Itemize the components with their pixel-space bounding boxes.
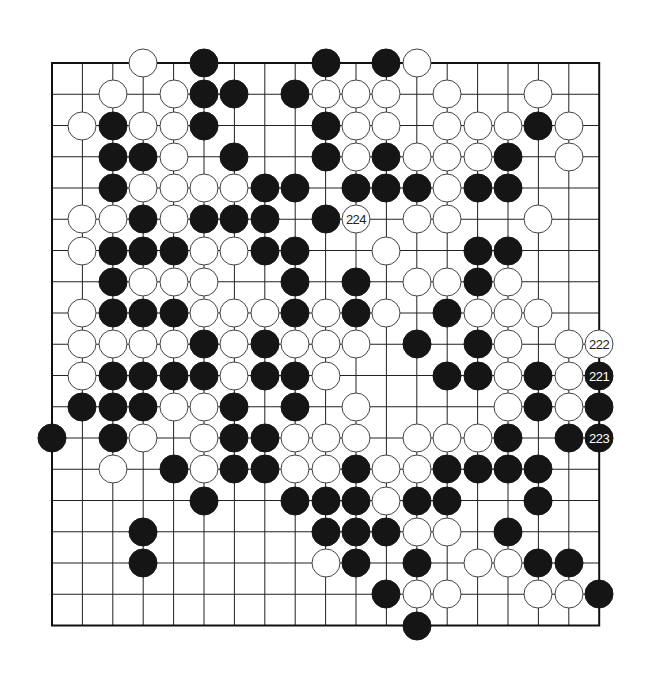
white-stone bbox=[190, 174, 219, 203]
black-stone bbox=[281, 299, 310, 328]
black-stone bbox=[372, 49, 401, 78]
white-stone bbox=[159, 174, 188, 203]
white-stone bbox=[372, 80, 401, 109]
white-stone bbox=[372, 299, 401, 328]
white-stone bbox=[494, 392, 523, 421]
white-stone bbox=[68, 111, 97, 140]
white-stone bbox=[159, 392, 188, 421]
go-board[interactable]: 224222221223 bbox=[0, 0, 654, 676]
white-stone bbox=[68, 236, 97, 265]
white-stone bbox=[554, 392, 583, 421]
black-stone bbox=[129, 549, 158, 578]
black-stone bbox=[342, 455, 371, 484]
black-stone bbox=[372, 580, 401, 609]
black-stone bbox=[463, 174, 492, 203]
black-stone bbox=[159, 299, 188, 328]
white-stone bbox=[190, 299, 219, 328]
white-stone bbox=[494, 299, 523, 328]
black-stone bbox=[98, 424, 127, 453]
black-stone bbox=[250, 330, 279, 359]
black-stone bbox=[281, 486, 310, 515]
white-stone bbox=[311, 361, 340, 390]
white-stone bbox=[129, 267, 158, 296]
white-stone bbox=[433, 517, 462, 546]
black-stone bbox=[129, 142, 158, 171]
white-stone bbox=[98, 330, 127, 359]
white-stone bbox=[433, 205, 462, 234]
black-stone bbox=[281, 361, 310, 390]
white-stone bbox=[402, 517, 431, 546]
white-stone bbox=[159, 142, 188, 171]
white-stone bbox=[433, 80, 462, 109]
black-stone bbox=[190, 361, 219, 390]
black-stone bbox=[342, 299, 371, 328]
white-stone bbox=[494, 111, 523, 140]
white-stone bbox=[190, 236, 219, 265]
black-stone bbox=[220, 142, 249, 171]
white-stone bbox=[433, 174, 462, 203]
black-stone bbox=[250, 236, 279, 265]
black-stone bbox=[494, 142, 523, 171]
black-stone bbox=[372, 174, 401, 203]
white-stone bbox=[372, 111, 401, 140]
black-stone bbox=[220, 455, 249, 484]
white-stone bbox=[433, 142, 462, 171]
black-stone: 223 bbox=[585, 424, 614, 453]
white-stone bbox=[159, 80, 188, 109]
white-stone bbox=[554, 361, 583, 390]
white-stone bbox=[68, 330, 97, 359]
black-stone bbox=[98, 236, 127, 265]
black-stone bbox=[463, 330, 492, 359]
black-stone bbox=[524, 392, 553, 421]
black-stone bbox=[342, 486, 371, 515]
white-stone bbox=[402, 49, 431, 78]
white-stone bbox=[554, 142, 583, 171]
move-number-label: 223 bbox=[589, 431, 609, 446]
black-stone bbox=[463, 236, 492, 265]
black-stone bbox=[372, 142, 401, 171]
black-stone bbox=[190, 111, 219, 140]
black-stone bbox=[554, 424, 583, 453]
black-stone bbox=[433, 299, 462, 328]
black-stone bbox=[342, 267, 371, 296]
white-stone bbox=[402, 424, 431, 453]
white-stone bbox=[311, 330, 340, 359]
white-stone bbox=[554, 111, 583, 140]
black-stone bbox=[98, 299, 127, 328]
white-stone bbox=[372, 486, 401, 515]
white-stone bbox=[190, 455, 219, 484]
white-stone bbox=[220, 236, 249, 265]
black-stone bbox=[585, 392, 614, 421]
black-stone bbox=[554, 549, 583, 578]
white-stone bbox=[311, 455, 340, 484]
black-stone bbox=[524, 455, 553, 484]
black-stone bbox=[311, 49, 340, 78]
black-stone bbox=[311, 111, 340, 140]
black-stone bbox=[494, 174, 523, 203]
white-stone bbox=[402, 205, 431, 234]
black-stone bbox=[463, 361, 492, 390]
white-stone bbox=[190, 392, 219, 421]
white-stone bbox=[524, 205, 553, 234]
white-stone bbox=[494, 361, 523, 390]
black-stone bbox=[250, 174, 279, 203]
white-stone bbox=[494, 267, 523, 296]
white-stone bbox=[190, 424, 219, 453]
black-stone bbox=[433, 361, 462, 390]
black-stone bbox=[38, 424, 67, 453]
black-stone bbox=[311, 486, 340, 515]
black-stone bbox=[190, 80, 219, 109]
black-stone bbox=[98, 111, 127, 140]
black-stone bbox=[281, 267, 310, 296]
black-stone bbox=[129, 361, 158, 390]
white-stone bbox=[463, 424, 492, 453]
white-stone bbox=[311, 424, 340, 453]
white-stone bbox=[311, 80, 340, 109]
black-stone bbox=[98, 392, 127, 421]
black-stone bbox=[463, 267, 492, 296]
white-stone bbox=[159, 330, 188, 359]
black-stone bbox=[98, 267, 127, 296]
white-stone bbox=[129, 111, 158, 140]
white-stone bbox=[342, 424, 371, 453]
white-stone bbox=[494, 330, 523, 359]
